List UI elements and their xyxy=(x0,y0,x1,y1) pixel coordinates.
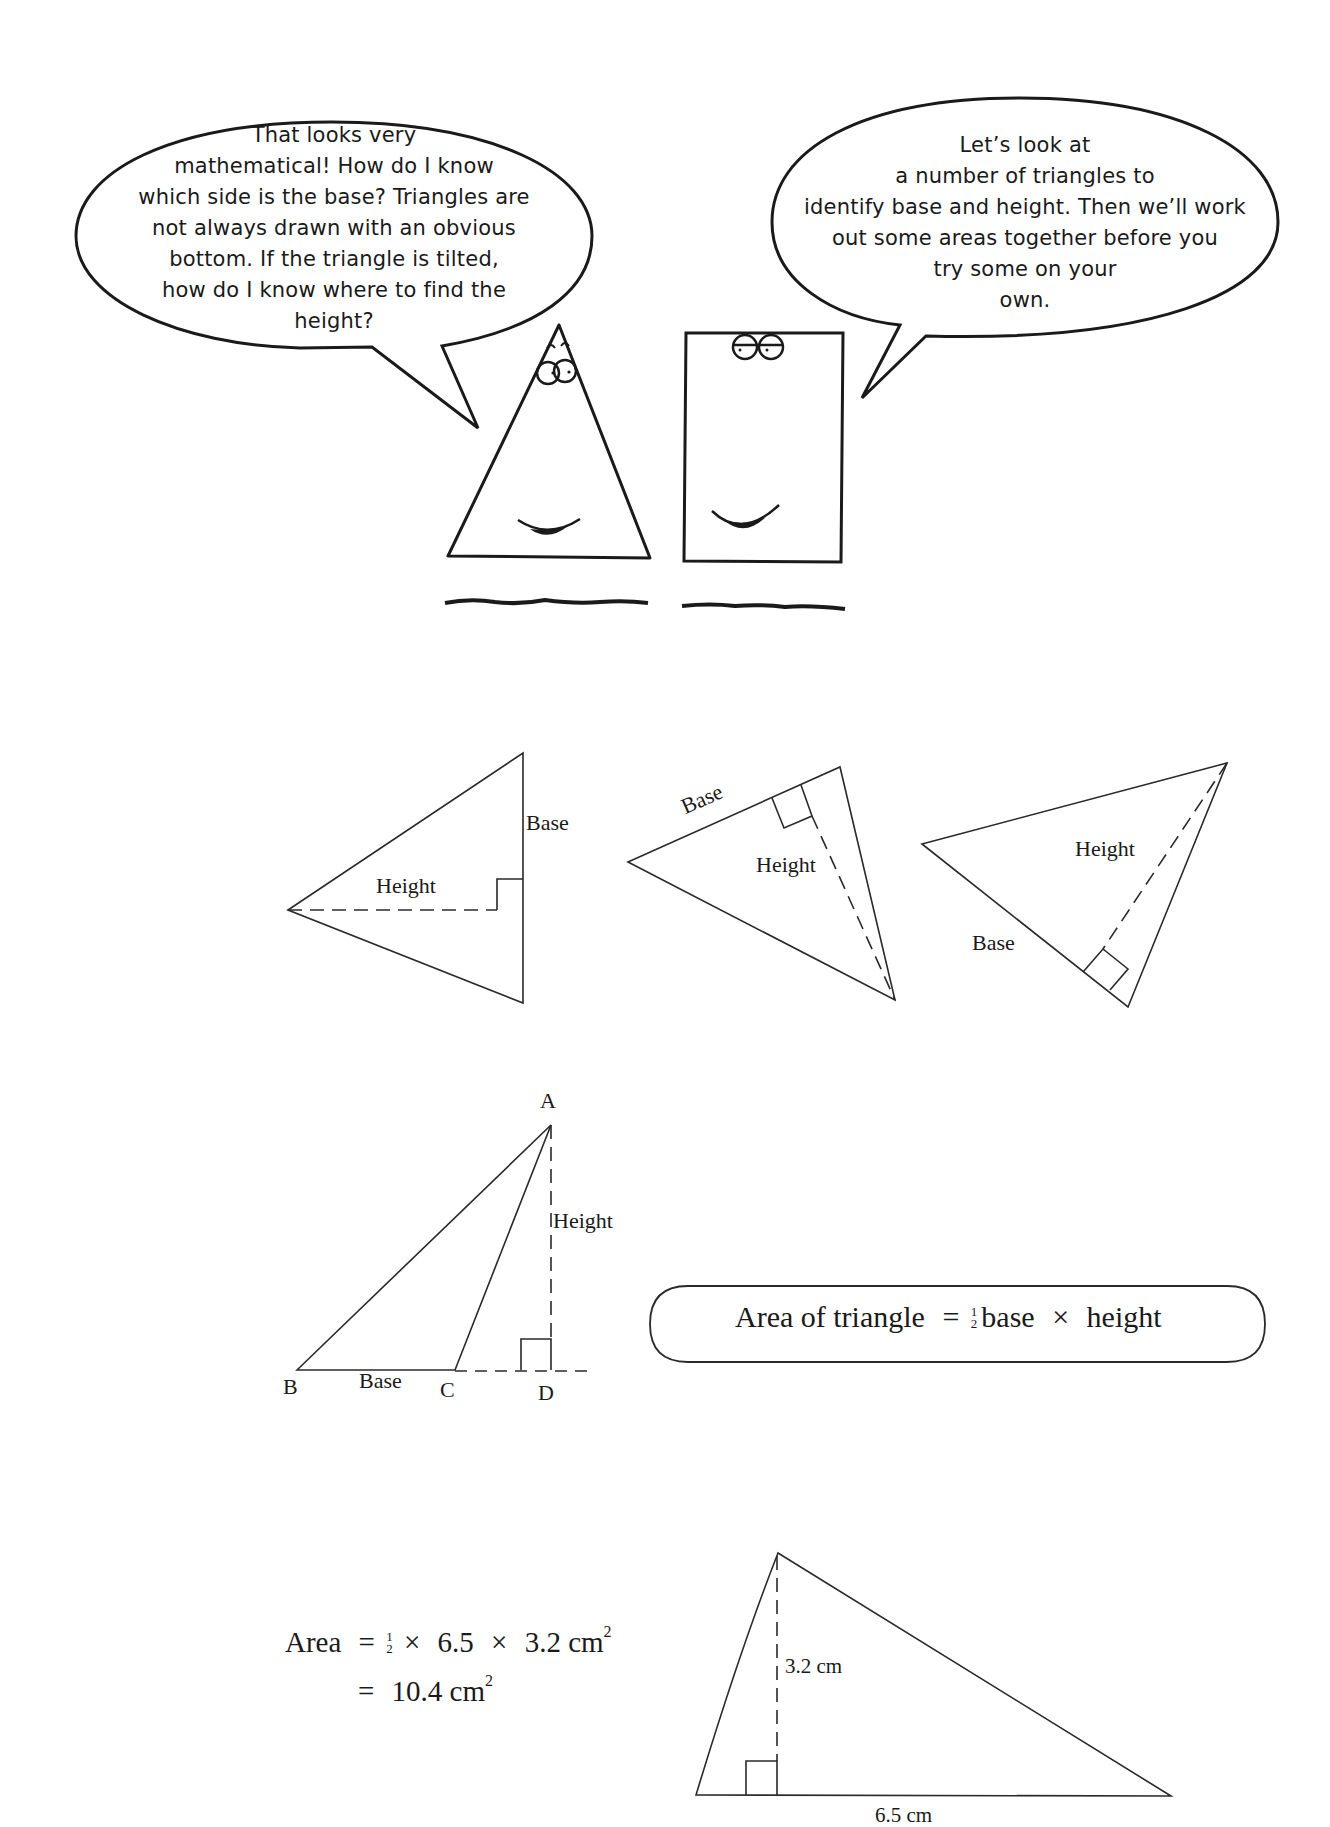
unit-exponent: 2 xyxy=(485,1672,493,1689)
area-formula: Area of triangle = 12base × height xyxy=(735,1302,1162,1332)
formula-lhs: Area of triangle xyxy=(735,1300,925,1333)
one-half-fraction: 12 xyxy=(386,1631,393,1655)
equals-sign: = xyxy=(359,1626,375,1658)
worked-example-line-2: = 10.4 cm2 xyxy=(358,1677,493,1706)
speech-line: height? xyxy=(104,306,564,337)
unit: cm xyxy=(568,1626,603,1658)
worked-example-triangle xyxy=(696,1553,1171,1796)
result-value: 10.4 xyxy=(392,1675,443,1707)
area-word: Area xyxy=(285,1626,341,1658)
unit: cm xyxy=(450,1675,485,1707)
triangle-3-height-label: Height xyxy=(1075,838,1135,860)
vertex-d-label: D xyxy=(538,1382,554,1404)
height-label: Height xyxy=(553,1210,613,1232)
formula-equals: = xyxy=(942,1300,959,1333)
triangle-character xyxy=(448,325,650,558)
formula-base: base xyxy=(981,1300,1034,1333)
speech-line: out some areas together before you xyxy=(785,223,1265,254)
triangle-2-height-label: Height xyxy=(756,854,816,876)
rectangle-character-speech: Let’s look at a number of triangles to i… xyxy=(785,130,1265,316)
height-value: 3.2 xyxy=(525,1626,561,1658)
example-triangle-2 xyxy=(628,767,895,1000)
triangle-1-height-label: Height xyxy=(376,875,436,897)
speech-line: a number of triangles to xyxy=(785,161,1265,192)
one-half-fraction: 12 xyxy=(971,1306,978,1330)
rectangle-character xyxy=(684,333,843,562)
equals-sign: = xyxy=(358,1675,374,1707)
worked-example-line-1: Area = 12 × 6.5 × 3.2 cm2 xyxy=(285,1628,612,1657)
triangle-3-base-label: Base xyxy=(972,932,1015,954)
speech-line: not always drawn with an obvious xyxy=(104,213,564,244)
base-label: Base xyxy=(359,1370,402,1392)
speech-line: Let’s look at xyxy=(785,130,1265,161)
triangle-character-ground-line xyxy=(445,600,648,603)
speech-line: mathematical! How do I know xyxy=(104,151,564,182)
speech-line: bottom. If the triangle is tilted, xyxy=(104,244,564,275)
vertex-c-label: C xyxy=(440,1379,455,1401)
speech-line: own. xyxy=(785,285,1265,316)
worked-height-label: 3.2 cm xyxy=(785,1656,842,1677)
page: That looks very mathematical! How do I k… xyxy=(0,0,1330,1827)
vertex-b-label: B xyxy=(283,1376,298,1398)
vertex-a-label: A xyxy=(540,1090,556,1112)
speech-line: how do I know where to find the xyxy=(104,275,564,306)
speech-line: identify base and height. Then we’ll wor… xyxy=(785,192,1265,223)
times-sign: × xyxy=(491,1626,507,1658)
speech-line: That looks very xyxy=(104,120,564,151)
triangle-1-base-label: Base xyxy=(526,812,569,834)
example-triangle-3 xyxy=(922,763,1227,1007)
base-value: 6.5 xyxy=(438,1626,474,1658)
speech-line: try some on your xyxy=(785,254,1265,285)
rectangle-character-ground-line xyxy=(682,605,845,610)
triangle-character-speech: That looks very mathematical! How do I k… xyxy=(104,120,564,337)
obtuse-triangle-abc xyxy=(297,1125,590,1371)
formula-times: × xyxy=(1052,1300,1069,1333)
formula-height: height xyxy=(1087,1300,1162,1333)
unit-exponent: 2 xyxy=(604,1623,612,1640)
speech-line: which side is the base? Triangles are xyxy=(104,182,564,213)
times-sign: × xyxy=(404,1626,420,1658)
worked-base-label: 6.5 cm xyxy=(875,1805,932,1826)
